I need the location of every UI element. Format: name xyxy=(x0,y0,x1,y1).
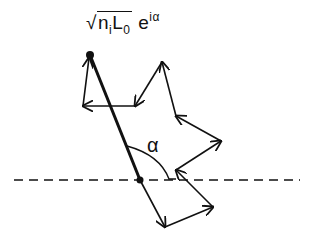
step-vector-3 xyxy=(176,170,213,207)
angle-label: α xyxy=(147,134,159,157)
step-vector-2 xyxy=(165,207,213,227)
step-vector-7 xyxy=(135,62,162,106)
radical-sign: √ xyxy=(86,12,97,33)
origin-dot xyxy=(137,177,144,184)
step-vector-4 xyxy=(176,141,221,170)
endpoint-dot xyxy=(86,51,94,59)
step-vector-5 xyxy=(176,116,221,141)
L-symbol: L xyxy=(112,12,123,33)
n-symbol: n xyxy=(98,12,109,33)
step-vector-6 xyxy=(162,62,176,116)
step-vector-1 xyxy=(140,180,165,227)
exp-base: e xyxy=(138,12,149,33)
step-vector-9 xyxy=(83,58,89,106)
resultant-vector xyxy=(90,55,140,180)
radicand: niL0 xyxy=(97,11,133,37)
exp-power: iα xyxy=(149,10,160,24)
L-subscript: 0 xyxy=(123,23,130,37)
amplitude-formula: √niL0 eiα xyxy=(86,10,160,37)
